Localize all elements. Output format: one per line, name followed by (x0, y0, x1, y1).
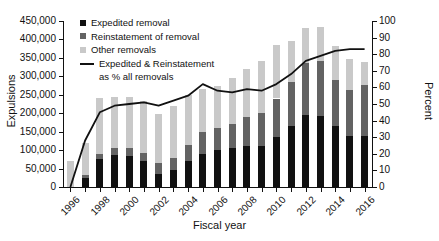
legend-line-icon (80, 63, 94, 65)
x-axis-tick (218, 188, 219, 192)
y-axis-left-line (63, 21, 64, 188)
bar-segment (126, 97, 133, 148)
bar-stack (82, 143, 89, 187)
x-axis-tick (159, 188, 160, 192)
legend-item-expedited: Expedited removal (80, 16, 214, 30)
bar-stack (214, 86, 221, 187)
y-axis-right-tick (373, 170, 377, 171)
y-axis-right-tick-label: 90 (379, 32, 421, 43)
bar-segment (155, 174, 162, 187)
bar-segment (273, 137, 280, 187)
y-axis-right-tick-label: 40 (379, 115, 421, 126)
x-axis-tick (203, 188, 204, 192)
bar-segment (199, 89, 206, 132)
bar-stack (96, 98, 103, 187)
bar-stack (258, 61, 265, 187)
y-axis-left-tick (59, 169, 63, 170)
y-axis-left-tick-label: 0 (4, 181, 56, 192)
legend-label-second-line: as % all removals (99, 70, 173, 84)
x-axis-tick (321, 188, 322, 192)
legend-swatch-icon (80, 47, 86, 53)
y-axis-right-tick (373, 38, 377, 39)
bar-segment (185, 161, 192, 187)
x-axis-tick (100, 188, 101, 192)
bar-stack (288, 41, 295, 187)
legend-label: Expedited & Reinstatement (99, 57, 214, 71)
y-axis-left-tick-label: 250,000 (4, 89, 56, 100)
chart-container: Expulsions Percent Fiscal year Expedited… (0, 0, 439, 241)
bar-segment (199, 154, 206, 187)
bar-segment (273, 99, 280, 138)
legend-item-percent-line: Expedited & Reinstatement (80, 57, 214, 71)
y-axis-right-tick (373, 137, 377, 138)
bar-segment (302, 63, 309, 115)
y-axis-left-tick (59, 95, 63, 96)
bar-segment (185, 95, 192, 145)
y-axis-right-tick (373, 104, 377, 105)
bar-segment (361, 62, 368, 85)
bar-stack (243, 69, 250, 187)
y-axis-right-tick (373, 71, 377, 72)
x-axis-tick (276, 188, 277, 192)
x-axis-tick (85, 188, 86, 192)
bar-segment (155, 163, 162, 174)
x-axis-tick (144, 188, 145, 192)
bar-segment (185, 145, 192, 160)
bar-segment (302, 115, 309, 187)
bar-stack (126, 97, 133, 187)
y-axis-right-tick-label: 10 (379, 164, 421, 175)
bar-stack (332, 46, 339, 187)
bar-segment (199, 132, 206, 153)
bar-segment (96, 154, 103, 160)
y-axis-left-tick-label: 200,000 (4, 107, 56, 118)
x-axis-tick (70, 188, 71, 192)
bar-segment (258, 113, 265, 145)
legend-swatch-icon (80, 33, 86, 39)
bar-segment (126, 156, 133, 187)
bar-segment (96, 159, 103, 187)
y-axis-right-tick-label: 50 (379, 98, 421, 109)
x-axis-tick (247, 188, 248, 192)
bar-segment (155, 114, 162, 163)
y-axis-left-tick (59, 187, 63, 188)
bar-segment (214, 128, 221, 150)
bar-segment (317, 116, 324, 187)
x-axis-tick (129, 188, 130, 192)
y-axis-right-tick (373, 21, 377, 22)
x-axis-tick (291, 188, 292, 192)
x-axis-tick (262, 188, 263, 192)
bar-segment (96, 98, 103, 154)
bar-segment (317, 61, 324, 116)
y-axis-left-tick (59, 76, 63, 77)
x-axis-tick (188, 188, 189, 192)
y-axis-left-tick-label: 300,000 (4, 70, 56, 81)
bar-segment (273, 45, 280, 98)
x-axis-tick (365, 188, 366, 192)
bar-segment (288, 41, 295, 82)
bar-segment (214, 150, 221, 187)
x-axis-tick (173, 188, 174, 192)
bar-segment (82, 143, 89, 175)
bar-segment (111, 97, 118, 148)
y-axis-right-tick-label: 80 (379, 48, 421, 59)
bar-segment (243, 117, 250, 147)
bar-segment (170, 158, 177, 171)
legend-label: Other removals (91, 43, 156, 57)
bar-segment (332, 46, 339, 80)
bar-segment (170, 170, 177, 187)
y-axis-right-tick (373, 187, 377, 188)
y-axis-left-tick (59, 113, 63, 114)
bar-segment (229, 124, 236, 148)
y-axis-left-tick (59, 150, 63, 151)
y-axis-left-tick-label: 450,000 (4, 15, 56, 26)
y-axis-left-tick-label: 150,000 (4, 126, 56, 137)
bar-segment (332, 80, 339, 126)
y-axis-right-tick-label: 0 (379, 181, 421, 192)
bar-segment (82, 178, 89, 187)
bar-stack (185, 95, 192, 187)
y-axis-left-tick (59, 21, 63, 22)
legend-item-percent-line-cont: as % all removals (99, 70, 214, 84)
bar-segment (346, 59, 353, 90)
bar-segment (288, 126, 295, 187)
y-axis-left-tick-label: 50,000 (4, 163, 56, 174)
